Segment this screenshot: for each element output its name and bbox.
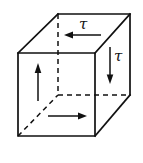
- visible-edges-group: [18, 14, 130, 136]
- shear-arrow-right-head: [107, 75, 114, 85]
- tau-label-right: τ: [114, 49, 122, 64]
- cube-drawing: [0, 0, 143, 163]
- front-face-outline: [18, 53, 95, 136]
- shear-arrow-front-left: [35, 63, 42, 101]
- shear-arrow-right: [107, 47, 114, 84]
- shear-arrow-top-head: [64, 32, 73, 39]
- top-left-connector: [18, 14, 58, 53]
- top-right-connector: [95, 14, 130, 53]
- shear-arrow-front-left-head: [35, 63, 42, 73]
- shear-arrow-front-bottom-head: [78, 113, 87, 120]
- bottom-right-connector: [95, 95, 130, 136]
- shear-arrow-front-bottom: [48, 113, 87, 120]
- shear-stress-cube-figure: τ τ: [0, 0, 143, 163]
- tau-label-top: τ: [79, 17, 87, 32]
